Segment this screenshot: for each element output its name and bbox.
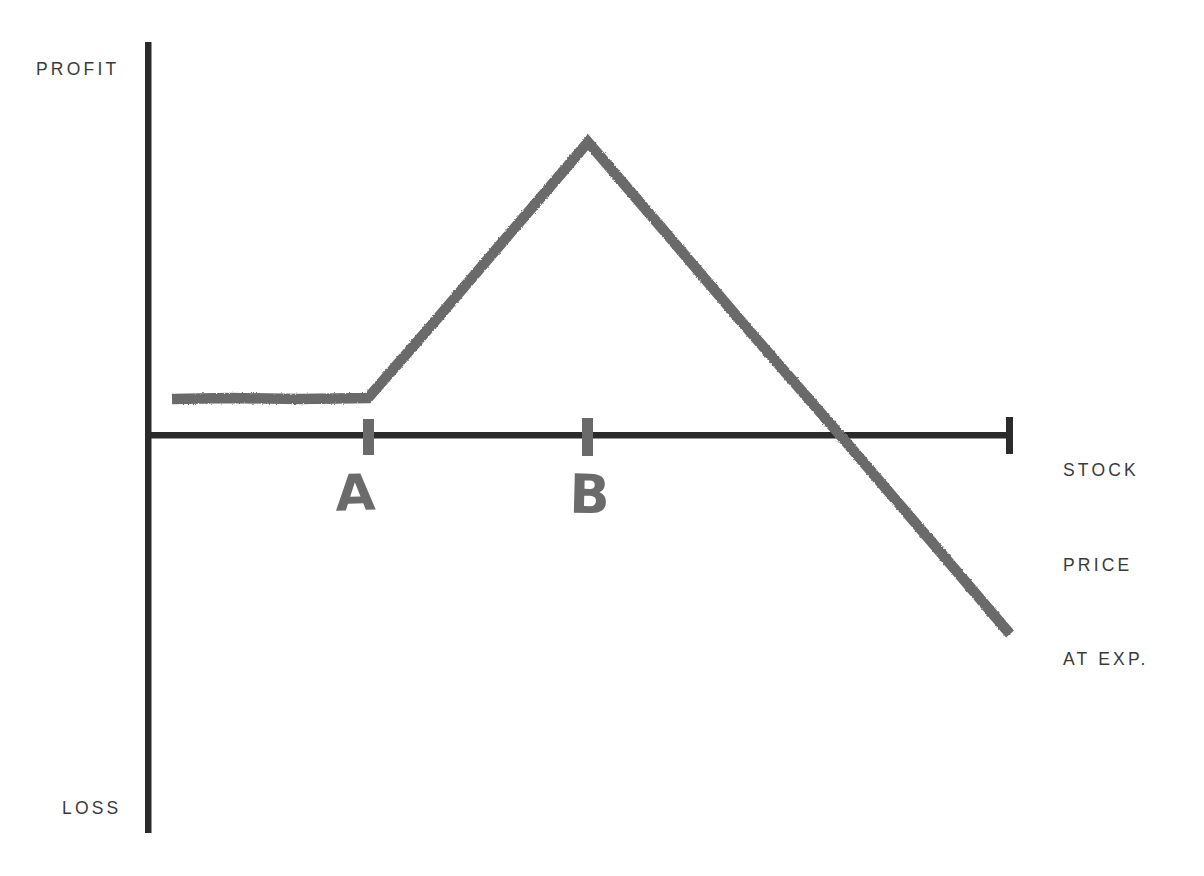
x-axis-end-cap [1006,417,1013,454]
x-axis-caption-line-3: AT EXP. [1063,644,1149,676]
strike-label-b: B [569,467,611,522]
payoff-curve [172,142,1010,634]
payoff-chart-canvas [0,0,1204,876]
y-axis-profit-label: PROFIT [36,61,119,79]
payoff-diagram: PROFIT LOSS STOCK PRICE AT EXP. A B [0,0,1204,876]
strike-tick-a [363,419,374,455]
x-axis-caption-line-1: STOCK [1063,455,1149,487]
strike-tick-b [582,418,593,456]
y-axis-loss-label: LOSS [62,800,122,818]
x-axis-line [146,432,1012,439]
strike-label-a: A [334,467,376,518]
x-axis-caption: STOCK PRICE AT EXP. [1063,392,1149,739]
x-axis-caption-line-2: PRICE [1063,550,1149,582]
